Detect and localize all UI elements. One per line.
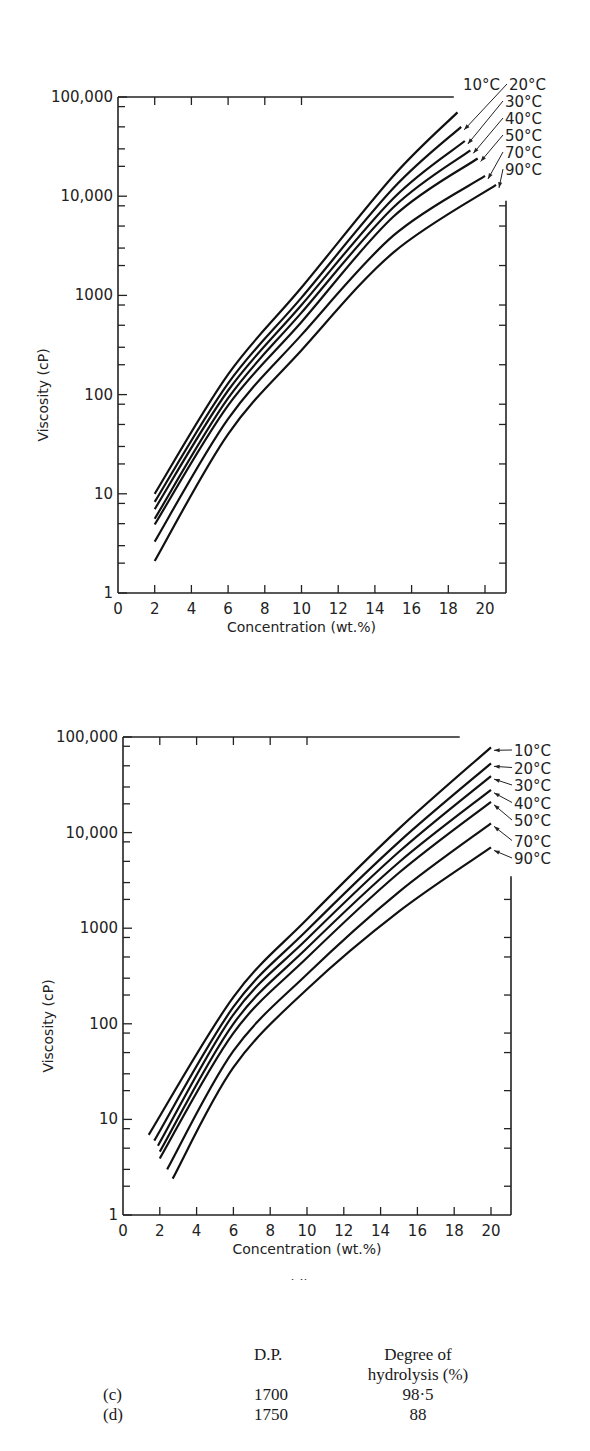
- series-labels: 10°C20°C30°C40°C50°C70°C90°C: [494, 742, 551, 868]
- leader-line: [473, 118, 503, 153]
- series-line-70C: [155, 176, 485, 542]
- series-label: 90°C: [505, 161, 542, 179]
- x-tick-label: 12: [334, 1222, 353, 1240]
- x-ticks: [155, 97, 485, 593]
- arrow-head-icon: [494, 748, 500, 752]
- table-header-hydrolysis: Degree of: [363, 1345, 473, 1365]
- x-tick-label: 18: [445, 1222, 464, 1240]
- x-tick-label: 0: [118, 1222, 128, 1240]
- x-tick-label: 4: [192, 1222, 202, 1240]
- y-tick-labels: 110100100010,000100,000: [56, 728, 118, 1224]
- y-axis-title: Viscosity (cP): [35, 348, 51, 441]
- y-tick-label: 10,000: [61, 187, 114, 205]
- series-label: 70°C: [505, 144, 542, 162]
- arrow-head-icon: [494, 779, 500, 783]
- x-tick-label: 0: [113, 600, 123, 618]
- x-tick-label: 6: [223, 600, 233, 618]
- x-axis-title: Concentration (wt.%): [227, 619, 376, 635]
- series-label: 30°C: [505, 93, 542, 111]
- series-curves: [149, 747, 491, 1178]
- y-tick-label: 1000: [75, 286, 113, 304]
- arrow-head-icon: [494, 793, 500, 797]
- series-label: 90°C: [514, 850, 551, 868]
- x-tick-label: 2: [150, 600, 160, 618]
- series-label: 70°C: [514, 833, 551, 851]
- series-line-90C: [173, 847, 491, 1178]
- x-axis-title: Concentration (wt.%): [232, 1241, 381, 1257]
- y-tick-label: 100,000: [51, 88, 113, 106]
- x-tick-label: 20: [475, 600, 494, 618]
- y-tick-label: 10: [99, 1110, 118, 1128]
- table-cell-sample: (c): [103, 1385, 122, 1405]
- series-label: 10°C: [514, 742, 551, 760]
- series-line-40C: [155, 150, 471, 518]
- table-cell-hydrolysis: 88: [363, 1405, 473, 1425]
- series-labels: 10°C20°C30°C40°C50°C70°C90°C: [463, 76, 546, 188]
- axes: [118, 97, 506, 593]
- x-tick-label: 6: [229, 1222, 239, 1240]
- y-ticks: [118, 97, 506, 593]
- x-tick-label: 4: [187, 600, 197, 618]
- table-header-row: D.P. Degree of: [0, 1345, 590, 1365]
- table-header-dp: D.P.: [254, 1345, 282, 1365]
- table-row: (d) 1750 88: [0, 1405, 590, 1425]
- series-label: 50°C: [505, 127, 542, 145]
- y-tick-label: 10,000: [66, 824, 119, 842]
- table-header-hydrolysis-line2: hydrolysis (%): [363, 1365, 473, 1385]
- y-tick-label: 10: [94, 485, 113, 503]
- arrow-head-icon: [488, 173, 493, 179]
- chart-c: 110100100010,000100,00002468101214161820…: [0, 0, 590, 640]
- series-line-20C: [154, 763, 491, 1140]
- arrow-head-icon: [494, 850, 500, 854]
- series-label: 30°C: [514, 777, 551, 795]
- table-header-row-2: hydrolysis (%): [0, 1365, 590, 1385]
- table-cell-dp: 1700: [254, 1385, 288, 1405]
- series-label: 40°C: [514, 795, 551, 813]
- y-tick-label: 1: [103, 584, 113, 602]
- table-cell-hydrolysis: 98·5: [363, 1385, 473, 1405]
- x-tick-label: 2: [155, 1222, 165, 1240]
- table-cell-sample: (d): [103, 1405, 123, 1425]
- properties-table: D.P. Degree of hydrolysis (%) (c) 1700 9…: [0, 1345, 590, 1425]
- series-label: 10°C: [463, 76, 500, 94]
- y-tick-label: 1000: [80, 919, 118, 937]
- x-tick-labels: 02468101214161820: [113, 600, 494, 618]
- y-axis-title: Viscosity (cP): [40, 979, 56, 1072]
- series-line-90C: [155, 185, 496, 561]
- series-line-70C: [167, 823, 491, 1169]
- y-tick-label: 1: [108, 1206, 118, 1224]
- y-tick-labels: 110100100010,000100,000: [51, 88, 113, 602]
- x-tick-label: 8: [265, 1222, 275, 1240]
- table-row: (c) 1700 98·5: [0, 1385, 590, 1405]
- series-line-50C: [160, 802, 491, 1159]
- series-label: 50°C: [514, 812, 551, 830]
- x-tick-label: 20: [481, 1222, 500, 1240]
- chart-d: 110100100010,000100,00002468101214161820…: [0, 640, 590, 1280]
- x-tick-label: 14: [365, 600, 384, 618]
- arrow-head-icon: [494, 765, 500, 769]
- panel-label: (d): [289, 1277, 309, 1280]
- series-label: 20°C: [514, 760, 551, 778]
- x-tick-label: 12: [329, 600, 348, 618]
- y-tick-label: 100,000: [56, 728, 118, 746]
- x-tick-label: 10: [297, 1222, 316, 1240]
- series-label: 40°C: [505, 110, 542, 128]
- x-tick-label: 16: [408, 1222, 427, 1240]
- x-tick-label: 16: [402, 600, 421, 618]
- x-tick-label: 10: [292, 600, 311, 618]
- y-tick-label: 100: [84, 386, 113, 404]
- x-ticks: [160, 737, 491, 1215]
- x-tick-labels: 02468101214161820: [118, 1222, 500, 1240]
- x-tick-label: 14: [371, 1222, 390, 1240]
- series-line-50C: [155, 158, 478, 524]
- x-tick-label: 8: [260, 600, 270, 618]
- table-cell-dp: 1750: [254, 1405, 288, 1425]
- y-tick-label: 100: [89, 1015, 118, 1033]
- series-line-40C: [160, 790, 491, 1152]
- series-line-30C: [158, 776, 491, 1146]
- x-tick-label: 18: [439, 600, 458, 618]
- series-curves: [155, 112, 496, 561]
- series-label: 20°C: [509, 76, 546, 94]
